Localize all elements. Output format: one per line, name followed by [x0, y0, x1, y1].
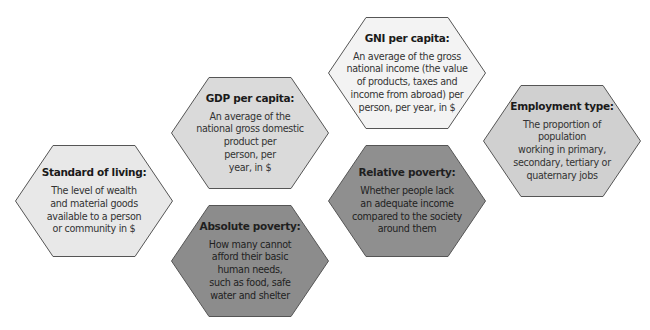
hexagon-content: GNI per capita: An average of the grossn… [346, 17, 468, 129]
description-line: person, per [196, 149, 304, 162]
description-line: national income (the value [346, 63, 467, 76]
description-line: an adequate income [352, 198, 462, 211]
hexagon-description: The proportion ofpopulationworking in pr… [513, 119, 611, 183]
description-line: and material goods [47, 198, 142, 211]
description-line: available to a person [47, 211, 142, 224]
hexagon-title: Relative poverty: [359, 166, 456, 178]
description-line: water and shelter [209, 290, 291, 303]
hexagon-description: How many cannotafford their basichuman n… [209, 239, 291, 303]
hexagon-title: Employment type: [510, 100, 613, 112]
hexagon-title: GNI per capita: [365, 32, 450, 44]
description-line: working in primary, [513, 144, 611, 157]
hexagon-title: Standard of living: [42, 166, 147, 178]
hexagon-absolute-poverty: Absolute poverty: How many cannotafford … [171, 205, 329, 317]
hexagon-description: An average of thenational gross domestic… [196, 111, 304, 175]
hexagon-title: GDP per capita: [206, 92, 294, 104]
description-line: Whether people lack [352, 185, 462, 198]
hexagon-content: Relative poverty: Whether people lackan … [346, 145, 468, 257]
hexagon-gdp-per-capita: GDP per capita: An average of thenationa… [171, 77, 329, 189]
hexagon-standard-of-living: Standard of living: The level of wealtha… [15, 145, 173, 257]
description-line: person, per year, in $ [346, 102, 467, 115]
description-line: or community in $ [47, 223, 142, 236]
description-line: The level of wealth [47, 185, 142, 198]
description-line: human needs, [209, 264, 291, 277]
description-line: An average of the gross [346, 51, 467, 64]
hexagon-title: Absolute poverty: [200, 220, 301, 232]
hexagon-content: Absolute poverty: How many cannotafford … [189, 205, 311, 317]
hexagon-employment-type: Employment type: The proportion ofpopula… [483, 85, 641, 197]
hexagon-gni-per-capita: GNI per capita: An average of the grossn… [328, 17, 486, 129]
description-line: The proportion of [513, 119, 611, 132]
description-line: compared to the society [352, 211, 462, 224]
description-line: population [513, 131, 611, 144]
description-line: quaternary jobs [513, 170, 611, 183]
description-line: afford their basic [209, 251, 291, 264]
description-line: product per [196, 136, 304, 149]
hexagon-content: Standard of living: The level of wealtha… [33, 145, 155, 257]
description-line: year, in $ [196, 162, 304, 175]
description-line: such as food, safe [209, 277, 291, 290]
description-line: national gross domestic [196, 123, 304, 136]
description-line: secondary, tertiary or [513, 157, 611, 170]
hexagon-content: Employment type: The proportion ofpopula… [501, 85, 623, 197]
hexagon-content: GDP per capita: An average of thenationa… [189, 77, 311, 189]
hexagon-description: Whether people lackan adequate incomecom… [352, 185, 462, 236]
description-line: How many cannot [209, 239, 291, 252]
hexagon-description: An average of the grossnational income (… [346, 51, 467, 115]
hexagon-relative-poverty: Relative poverty: Whether people lackan … [328, 145, 486, 257]
description-line: of products, taxes and [346, 76, 467, 89]
description-line: income from abroad) per [346, 89, 467, 102]
description-line: An average of the [196, 111, 304, 124]
hexagon-description: The level of wealthand material goodsava… [47, 185, 142, 236]
description-line: around them [352, 223, 462, 236]
